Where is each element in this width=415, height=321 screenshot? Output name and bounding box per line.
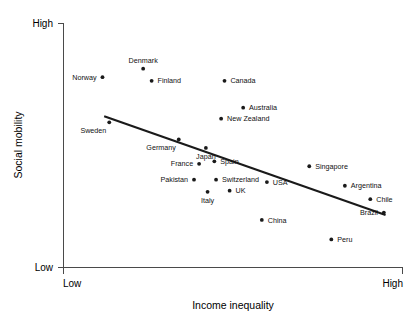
plot-area: High Low Low High Income inequality Soci… xyxy=(0,0,415,321)
data-point-marker xyxy=(177,138,181,142)
data-point-marker xyxy=(343,184,347,188)
data-point-label: Italy xyxy=(201,196,215,205)
data-point-label: Denmark xyxy=(129,56,159,65)
y-tick-label-high: High xyxy=(32,18,53,29)
data-point-marker xyxy=(223,79,227,83)
data-point-label: Spain xyxy=(220,157,238,166)
data-point-label: Switzerland xyxy=(222,175,259,184)
data-point-label: Singapore xyxy=(315,162,348,171)
data-point-marker xyxy=(101,75,105,79)
data-point-label: Norway xyxy=(72,73,97,82)
data-point-label: Finland xyxy=(158,76,182,85)
scatter-chart: High Low Low High Income inequality Soci… xyxy=(0,0,415,321)
data-point-label: France xyxy=(171,159,193,168)
x-axis-title: Income inequality xyxy=(192,299,274,311)
data-point-label: Chile xyxy=(376,195,392,204)
data-point-label: New Zealand xyxy=(227,114,269,123)
axis-spines xyxy=(64,24,403,268)
data-point-label: Brazil xyxy=(360,208,378,217)
data-point-label: Germany xyxy=(146,143,176,152)
x-tick-label-high: High xyxy=(382,278,403,289)
data-point-marker xyxy=(241,106,245,110)
data-point-marker xyxy=(260,218,264,222)
data-point-label: Japan xyxy=(196,152,216,161)
data-point-marker xyxy=(307,164,311,168)
data-point-marker xyxy=(197,162,201,166)
data-point-marker xyxy=(150,79,154,83)
data-point-marker xyxy=(368,197,372,201)
data-points-group: NorwayDenmarkFinlandCanadaAustraliaNew Z… xyxy=(72,56,392,244)
data-point-marker xyxy=(265,180,269,184)
data-point-marker xyxy=(107,120,111,124)
data-point-label: Argentina xyxy=(351,181,382,190)
data-point-marker xyxy=(192,178,196,182)
data-point-marker xyxy=(204,146,208,150)
data-point-label: Peru xyxy=(337,235,352,244)
data-point-marker xyxy=(212,159,216,163)
data-point-marker xyxy=(382,211,386,215)
data-point-label: Australia xyxy=(249,103,277,112)
data-point-marker xyxy=(329,238,333,242)
x-tick-label-low: Low xyxy=(63,278,82,289)
data-point-label: USA xyxy=(273,178,288,187)
data-point-marker xyxy=(228,189,232,193)
data-point-label: Sweden xyxy=(80,126,106,135)
data-point-label: Canada xyxy=(230,76,255,85)
data-point-marker xyxy=(141,67,145,71)
data-point-label: Pakistan xyxy=(161,175,189,184)
y-tick-label-low: Low xyxy=(35,262,54,273)
data-point-marker xyxy=(219,117,223,121)
y-axis-title: Social mobility xyxy=(12,111,24,179)
data-point-marker xyxy=(206,190,210,194)
data-point-label: UK xyxy=(236,186,246,195)
data-point-label: China xyxy=(268,216,287,225)
data-point-marker xyxy=(214,178,218,182)
